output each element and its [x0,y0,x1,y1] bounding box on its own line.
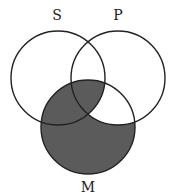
label-s: S [52,7,62,23]
label-p: P [113,7,122,23]
venn-svg: S P M [0,0,176,194]
shaded-region [0,0,176,194]
venn-diagram: S P M [0,0,176,194]
label-m: M [81,179,95,194]
